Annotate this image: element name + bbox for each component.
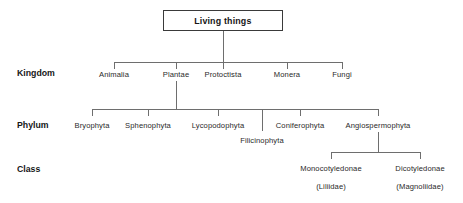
class-node-dicotyledonae-alt: (Magnoliidae) [396, 182, 443, 191]
connector-phylum-stub-filicinophyta [262, 109, 263, 131]
class-node-monocotyledonae-alt: (Liliidae) [316, 182, 346, 191]
connector-phylum-bus [92, 109, 379, 110]
rank-label-kingdom: Kingdom [17, 67, 55, 78]
rank-label-class: Class [17, 163, 40, 174]
phylum-node-filicinophyta: Filicinophyta [240, 136, 283, 145]
connector-angiospermophyta-stem [378, 132, 379, 152]
class-node-monocotyledonae: Monocotyledonae [300, 164, 361, 173]
connector-phylum-stub-angiospermophyta [378, 109, 379, 116]
root-node-living-things: Living things [163, 10, 283, 31]
connector-phylum-stub-sphenophyta [148, 109, 149, 116]
connector-class-stub-monocotyledonae [331, 152, 332, 159]
connector-root-stem [223, 31, 224, 62]
kingdom-node-plantae: Plantae [163, 70, 189, 79]
connector-plantae-stem [176, 81, 177, 109]
kingdom-node-monera: Monera [274, 70, 300, 79]
connector-kingdom-stub-monera [287, 62, 288, 69]
phylum-node-sphenophyta: Sphenophyta [125, 121, 171, 130]
kingdom-node-animalia: Animalia [99, 70, 129, 79]
connector-kingdom-bus [114, 62, 342, 63]
connector-phylum-stub-bryophyta [92, 109, 93, 116]
root-node-label: Living things [194, 15, 251, 26]
connector-phylum-stub-lycopodophyta [218, 109, 219, 116]
phylum-node-lycopodophyta: Lycopodophyta [192, 121, 245, 130]
connector-kingdom-stub-fungi [342, 62, 343, 69]
phylum-node-angiospermophyta: Angiospermophyta [346, 121, 411, 130]
class-node-dicotyledonae: Dicotyledonae [395, 164, 444, 173]
connector-kingdom-stub-plantae [176, 62, 177, 69]
connector-phylum-stub-coniferophyta [300, 109, 301, 116]
connector-class-bus [331, 152, 420, 153]
connector-kingdom-stub-animalia [114, 62, 115, 69]
connector-kingdom-stub-protoctista [223, 62, 224, 69]
phylum-node-coniferophyta: Coniferophyta [276, 121, 325, 130]
phylum-node-bryophyta: Bryophyta [74, 121, 109, 130]
taxonomy-diagram: Living things Kingdom Animalia Plantae P… [0, 0, 463, 203]
kingdom-node-fungi: Fungi [332, 70, 351, 79]
rank-label-phylum: Phylum [17, 119, 49, 130]
kingdom-node-protoctista: Protoctista [205, 70, 242, 79]
connector-class-stub-dicotyledonae [420, 152, 421, 159]
